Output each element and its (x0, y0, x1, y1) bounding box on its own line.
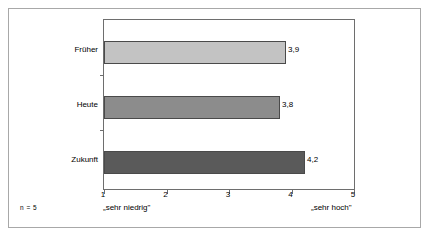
sample-size-note: n = 5 (20, 203, 37, 212)
scale-anchor-low: „sehr niedrig" (103, 203, 150, 213)
bar-zukunft (104, 151, 305, 174)
category-label-zukunft: Zukunft (43, 155, 98, 165)
bar-heute (104, 96, 280, 119)
value-label-zukunft: 4,2 (307, 155, 318, 165)
chart-figure: Früher Heute Zukunft 3,9 3,8 4,2 1 2 3 4… (0, 0, 430, 237)
category-label-heute: Heute (43, 100, 98, 110)
x-tick-label-3: 3 (226, 190, 230, 200)
x-tick-label-4: 4 (288, 190, 292, 200)
bar-frueher (104, 41, 286, 64)
y-axis-tick (100, 130, 104, 131)
value-label-frueher: 3,9 (288, 45, 299, 55)
x-tick-label-5: 5 (351, 190, 355, 200)
category-label-frueher: Früher (43, 45, 98, 55)
value-label-heute: 3,8 (282, 100, 293, 110)
y-axis-tick (100, 75, 104, 76)
x-tick-label-1: 1 (101, 190, 105, 200)
scale-anchor-high: „sehr hoch" (311, 203, 352, 213)
x-tick-label-2: 2 (163, 190, 167, 200)
